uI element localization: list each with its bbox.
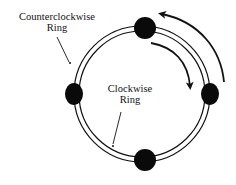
clockwise-ring-label-line2: Ring (100, 94, 160, 105)
counterclockwise-ring-label-line1: Counterclockwise (12, 11, 102, 22)
clockwise-arrow (151, 43, 190, 86)
counterclockwise-leader-line (57, 37, 69, 62)
node-right (201, 83, 219, 105)
clockwise-ring-label: Clockwise Ring (100, 83, 160, 105)
counterclockwise-ring-label: Counterclockwise Ring (12, 11, 102, 33)
ring-diagram: Counterclockwise Ring Clockwise Ring (0, 0, 236, 185)
counterclockwise-ring-label-line2: Ring (12, 22, 102, 33)
node-left (65, 83, 83, 105)
clockwise-ring-label-line1: Clockwise (100, 83, 160, 94)
clockwise-leader-dot (112, 145, 114, 147)
counterclockwise-leader-dot (69, 62, 71, 64)
node-bottom (134, 149, 156, 171)
node-top (134, 17, 156, 39)
counterclockwise-arrow (162, 14, 224, 82)
clockwise-leader-line (113, 112, 121, 144)
